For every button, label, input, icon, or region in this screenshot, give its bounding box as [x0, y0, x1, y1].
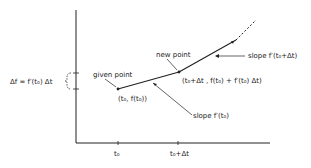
slope-initial-arrow [153, 83, 192, 115]
slope-next-label: slope f′(t₀+Δt) [248, 52, 298, 60]
segment-continuation [236, 20, 256, 40]
given-coords-label: (t₀, f(t₀)) [118, 95, 147, 103]
tick-t0-label: t₀ [114, 150, 120, 158]
delta-f-bracket [65, 73, 71, 89]
tick-t0-dt-label: t₀+Δt [170, 150, 189, 158]
delta-f-label: Δf = f′(t₀) Δt [10, 78, 53, 86]
new-point-marker [178, 71, 181, 74]
slope-initial-label: slope f′(t₀) [193, 112, 229, 120]
euler-diagram: Δf = f′(t₀) Δt given point (t₀, f(t₀)) n… [0, 0, 311, 168]
new-point-arrow [167, 59, 177, 70]
given-point-label: given point [93, 71, 133, 79]
slope-next-arrowhead [215, 54, 219, 58]
new-point-label: new point [156, 51, 191, 59]
given-point-arrow [105, 79, 116, 87]
given-point-marker [117, 88, 120, 91]
new-coords-label: (t₀+Δt , f(t₀) + f′(t₀) Δt) [182, 77, 262, 85]
